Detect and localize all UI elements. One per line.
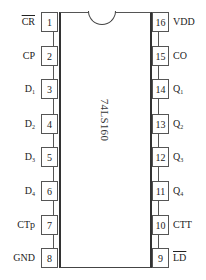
pin-label-10: CTT <box>173 219 192 231</box>
pin-signal-subscript: 3 <box>180 157 183 163</box>
pin-box-8: 8 <box>41 248 58 268</box>
pin-connector-line <box>53 201 54 215</box>
pin-label-12: Q3 <box>173 151 183 166</box>
pin-connector-line <box>158 134 159 147</box>
pin-label-6: D4 <box>25 185 35 200</box>
pin-box-11: 11 <box>152 181 169 201</box>
chip-part-number: 74LS160 <box>99 99 111 141</box>
pin-label-7: CTp <box>17 219 35 231</box>
pin-connector-line <box>158 201 159 215</box>
pin-label-4: D2 <box>25 118 35 133</box>
pin-label-8: GND <box>13 252 35 264</box>
pin-signal-name: LD <box>173 252 186 263</box>
pin-label-1: CR <box>22 16 35 28</box>
pin-box-1: 1 <box>41 12 58 32</box>
pin-signal-name: CTp <box>17 219 35 230</box>
pin-signal-subscript: 3 <box>32 157 35 163</box>
pin-label-3: D1 <box>25 83 35 98</box>
pin-signal-name: D <box>25 118 32 129</box>
pin-box-10: 10 <box>152 215 169 235</box>
pin-connector-line <box>53 167 54 181</box>
pin-connector-line <box>53 235 54 248</box>
pin-label-2: CP <box>23 50 35 62</box>
pin-label-13: Q2 <box>173 118 183 133</box>
pin-box-3: 3 <box>41 79 58 99</box>
pin-connector-line <box>158 32 159 46</box>
pin-label-9: LD <box>173 252 186 264</box>
pin-box-14: 14 <box>152 79 169 99</box>
pin-signal-name: D <box>25 83 32 94</box>
pin-label-5: D3 <box>25 151 35 166</box>
pin-connector-line <box>158 167 159 181</box>
pin-connector-line <box>158 235 159 248</box>
pin-connector-line <box>53 32 54 46</box>
pin-label-16: VDD <box>173 16 195 28</box>
pin-signal-subscript: 4 <box>180 191 183 197</box>
pin-box-12: 12 <box>152 147 169 167</box>
pin-signal-subscript: 2 <box>32 124 35 130</box>
pin-box-13: 13 <box>152 114 169 134</box>
pin-box-16: 16 <box>152 12 169 32</box>
pin-label-15: CO <box>173 50 187 62</box>
pin-box-6: 6 <box>41 181 58 201</box>
pin-signal-name: CO <box>173 50 187 61</box>
pin-box-2: 2 <box>41 46 58 66</box>
pin-box-15: 15 <box>152 46 169 66</box>
pin-connector-line <box>158 99 159 114</box>
pin-box-4: 4 <box>41 114 58 134</box>
pin-signal-name: GND <box>13 252 35 263</box>
pin-box-5: 5 <box>41 147 58 167</box>
pin-signal-subscript: 2 <box>180 124 183 130</box>
pin-signal-subscript: 1 <box>180 89 183 95</box>
pin-signal-name: CTT <box>173 219 192 230</box>
pin-signal-name: D <box>25 185 32 196</box>
pin-signal-subscript: 4 <box>32 191 35 197</box>
pin-connector-line <box>53 66 54 79</box>
pin-signal-subscript: 1 <box>32 89 35 95</box>
pin-connector-line <box>53 134 54 147</box>
pin-connector-line <box>53 99 54 114</box>
pin-box-7: 7 <box>41 215 58 235</box>
pin-label-11: Q4 <box>173 185 183 200</box>
pin-signal-name: CP <box>23 50 35 61</box>
ic-pinout-diagram: 74LS160 1CR2CP3D14D25D36D47CTp8GND 16VDD… <box>0 0 206 280</box>
pin-label-14: Q1 <box>173 83 183 98</box>
pin-signal-name: D <box>25 151 32 162</box>
pin-signal-name: VDD <box>173 16 195 27</box>
pin-connector-line <box>158 66 159 79</box>
pin-box-9: 9 <box>152 248 169 268</box>
pin-signal-name: CR <box>22 16 35 27</box>
